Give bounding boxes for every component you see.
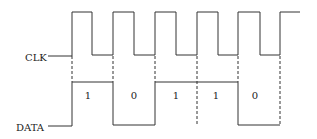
clk-label: CLK xyxy=(25,52,47,63)
bit-value: 1 xyxy=(173,90,179,101)
data-label: DATA xyxy=(16,122,45,133)
timing-diagram-svg: CLK DATA 1 0 1 1 0 xyxy=(0,0,317,139)
timing-diagram: CLK DATA 1 0 1 1 0 xyxy=(0,0,317,139)
bit-value: 1 xyxy=(85,90,91,101)
bit-value: 0 xyxy=(131,90,137,101)
clk-waveform xyxy=(48,12,300,56)
bit-value: 0 xyxy=(252,90,258,101)
data-waveform xyxy=(48,82,280,126)
bit-value: 1 xyxy=(213,90,219,101)
